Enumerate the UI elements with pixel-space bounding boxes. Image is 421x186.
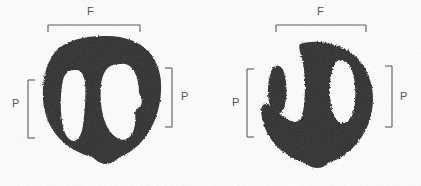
right-track-p-left-bracket bbox=[247, 69, 254, 137]
left-track-p-right-bracket bbox=[165, 68, 172, 127]
left-track-f-label: F bbox=[87, 6, 94, 17]
track-measurement-figure: F P P F P P bbox=[0, 0, 421, 186]
right-track-p-left-label: P bbox=[232, 97, 239, 108]
left-track-p-left-label: P bbox=[12, 98, 19, 109]
left-track-p-right-label: P bbox=[181, 91, 188, 102]
right-track-f-label: F bbox=[317, 6, 324, 17]
left-track-shape bbox=[43, 36, 161, 164]
right-track-f-bracket bbox=[276, 25, 366, 32]
track-illustrations bbox=[0, 0, 421, 186]
right-track-shape bbox=[261, 42, 373, 168]
right-track-p-right-bracket bbox=[385, 66, 392, 127]
right-track-p-right-label: P bbox=[400, 91, 407, 102]
left-track-p-left-bracket bbox=[28, 80, 35, 138]
left-track-f-bracket bbox=[48, 25, 140, 32]
